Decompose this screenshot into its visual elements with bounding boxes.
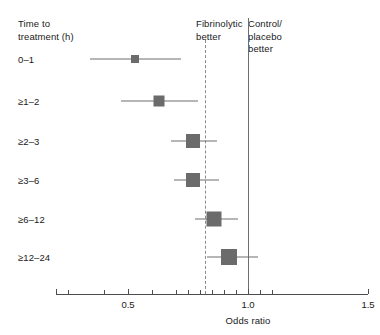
x-axis-line (56, 294, 368, 295)
x-axis-minor-tick-5 (188, 290, 189, 294)
region-label-control-placebo-better: Control/ placebo better (248, 18, 282, 56)
forest-plot-figure: Time to treatment (h) Fibrinolytic bette… (0, 0, 380, 335)
x-axis-tick-label-1: 0.5 (121, 299, 134, 310)
pooled-estimate-reference-line (205, 40, 206, 294)
row-label-1: 0–1 (18, 54, 34, 65)
x-axis-title: Odds ratio (226, 315, 271, 326)
odds-ratio-marker-3 (186, 134, 200, 148)
x-axis-minor-tick-2 (104, 290, 105, 294)
region-label-fibrinolytic-better: Fibrinolytic better (196, 18, 243, 43)
column-header-time-to-treatment: Time to treatment (h) (18, 18, 74, 43)
x-axis-major-tick-3 (368, 289, 369, 294)
odds-ratio-marker-2 (154, 96, 165, 107)
odds-ratio-marker-6 (221, 249, 237, 265)
x-axis-major-tick-2 (248, 289, 249, 294)
row-label-6: ≥12–24 (18, 252, 50, 263)
x-axis-tick-label-2: 1.0 (241, 299, 254, 310)
x-axis-minor-tick-9 (236, 290, 237, 294)
row-label-3: ≥2–3 (18, 136, 39, 147)
x-axis-minor-tick-8 (224, 290, 225, 294)
x-axis-minor-tick-10 (260, 290, 261, 294)
x-axis-tick-label-3: 1.5 (361, 299, 374, 310)
x-axis-start-tick (56, 289, 57, 294)
x-axis-minor-tick-6 (200, 290, 201, 294)
odds-ratio-marker-4 (186, 173, 200, 187)
null-effect-reference-line (248, 18, 249, 294)
x-axis-minor-tick-4 (176, 290, 177, 294)
row-label-4: ≥3–6 (18, 175, 39, 186)
odds-ratio-marker-5 (207, 212, 222, 227)
x-axis-minor-tick-11 (272, 290, 273, 294)
row-label-5: ≥6–12 (18, 214, 45, 225)
x-axis-minor-tick-7 (212, 290, 213, 294)
row-label-2: ≥1–2 (18, 96, 39, 107)
odds-ratio-marker-1 (131, 55, 139, 63)
x-axis-minor-tick-3 (152, 290, 153, 294)
x-axis-minor-tick-1 (68, 290, 69, 294)
x-axis-major-tick-1 (128, 289, 129, 294)
